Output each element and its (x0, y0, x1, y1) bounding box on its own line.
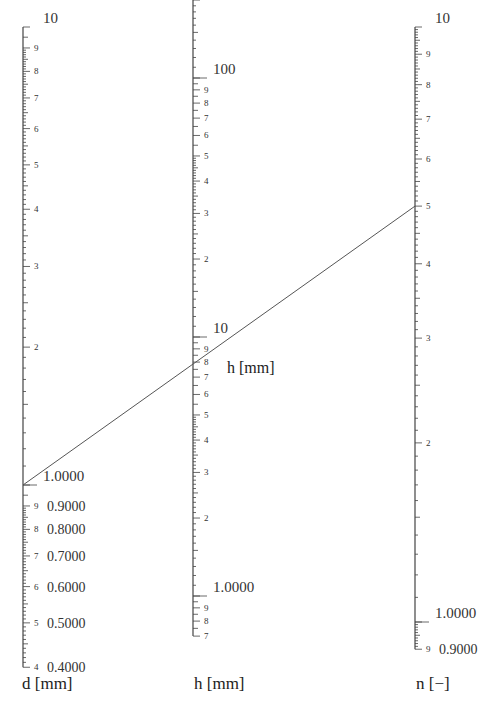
h-label-6: 6 (204, 389, 209, 399)
n-label-1.0000: 1.0000 (435, 605, 476, 621)
n-label-0.9000: 0.9000 (439, 642, 478, 657)
d-label-6: 6 (34, 582, 39, 592)
d-label-6: 6 (34, 124, 39, 134)
d-label-0.8000: 0.8000 (47, 522, 86, 537)
d-label-0.7000: 0.7000 (47, 549, 86, 564)
n-label-2: 2 (426, 438, 431, 448)
n-label-9: 9 (426, 49, 431, 59)
d-label-4: 4 (34, 662, 39, 672)
h-label-9: 9 (204, 344, 209, 354)
d-label-10: 10 (43, 10, 58, 26)
d-label-0.9000: 0.9000 (47, 499, 86, 514)
h-label-5: 5 (204, 151, 209, 161)
n-label-10: 10 (435, 10, 450, 26)
h-label-7: 7 (204, 372, 209, 382)
h-label-4: 4 (204, 435, 209, 445)
d-label-8: 8 (34, 66, 39, 76)
n-label-5: 5 (426, 201, 431, 211)
n-label-7: 7 (426, 114, 431, 124)
h-axis-title: h [mm] (194, 674, 245, 694)
h-label-4: 4 (204, 176, 209, 186)
h-axis: 1009876543210987654321.0000987 (193, 0, 254, 641)
isopleth-line (23, 206, 415, 485)
h-label-9: 9 (204, 85, 209, 95)
d-label-0.5000: 0.5000 (47, 616, 86, 631)
d-label-5: 5 (34, 618, 39, 628)
d-label-1.0000: 1.0000 (43, 468, 84, 484)
h-label-100: 100 (213, 61, 236, 77)
d-label-5: 5 (34, 160, 39, 170)
h-label-3: 3 (204, 208, 209, 218)
nomogram: 10987654321.000090.900080.800070.700060.… (0, 0, 489, 709)
h-label-6: 6 (204, 130, 209, 140)
d-label-7: 7 (34, 93, 39, 103)
h-label-2: 2 (204, 513, 209, 523)
d-label-0.4000: 0.4000 (47, 660, 86, 675)
d-label-4: 4 (34, 204, 39, 214)
h-label-2: 2 (204, 254, 209, 264)
h-label-3: 3 (204, 467, 209, 477)
d-label-0.6000: 0.6000 (47, 580, 86, 595)
n-label-3: 3 (426, 333, 431, 343)
n-axis-title: n [−] (416, 674, 450, 694)
d-label-8: 8 (34, 524, 39, 534)
d-label-2: 2 (34, 342, 39, 352)
d-axis-title: d [mm] (22, 674, 73, 694)
h-label-10: 10 (213, 320, 228, 336)
n-label-6: 6 (426, 154, 431, 164)
n-label-4: 4 (426, 259, 431, 269)
d-label-9: 9 (34, 43, 39, 53)
h-label-8: 8 (204, 357, 209, 367)
h-label-1.0000: 1.0000 (213, 579, 254, 595)
h-axis-inline-title: h [mm] (227, 359, 275, 377)
d-label-3: 3 (34, 261, 39, 271)
d-label-9: 9 (34, 501, 39, 511)
h-label-7: 7 (204, 113, 209, 123)
h-label-8: 8 (204, 98, 209, 108)
h-label-5: 5 (204, 410, 209, 420)
h-label-8: 8 (204, 616, 209, 626)
h-label-9: 9 (204, 603, 209, 613)
n-axis: 10987654321.000090.9000 (415, 10, 478, 657)
d-label-7: 7 (34, 551, 39, 561)
n-label-8: 8 (426, 80, 431, 90)
h-label-7: 7 (204, 631, 209, 641)
d-axis: 10987654321.000090.900080.800070.700060.… (23, 10, 86, 675)
n-label-9: 9 (426, 644, 431, 654)
